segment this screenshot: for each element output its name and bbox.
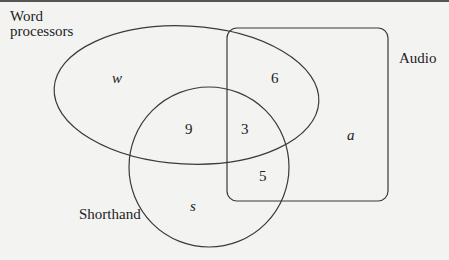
region-a-only: a (347, 128, 355, 143)
audio-set-rectangle (227, 28, 388, 201)
shorthand-set-circle (129, 87, 289, 247)
region-w-a-s: 3 (241, 122, 249, 137)
region-s-only: s (190, 199, 196, 214)
region-w-and-s: 9 (185, 122, 193, 137)
venn-diagram (0, 0, 449, 260)
word-processors-label-line1: Word (10, 9, 43, 24)
region-a-and-s: 5 (259, 169, 267, 184)
word-processors-label-line2: processors (10, 24, 73, 39)
word-processors-set-ellipse (51, 19, 323, 171)
region-w-and-a: 6 (271, 71, 279, 86)
audio-label: Audio (399, 51, 437, 66)
region-w-only: w (112, 71, 122, 86)
shorthand-label: Shorthand (79, 207, 141, 222)
